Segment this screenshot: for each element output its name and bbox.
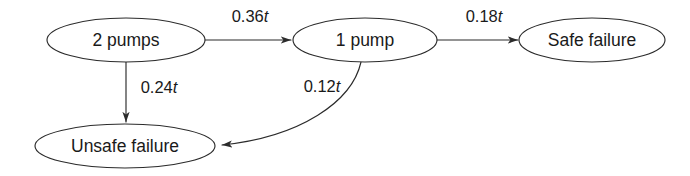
node-one-pump[interactable]: 1 pump <box>293 18 437 62</box>
node-label-unsafe-failure: Unsafe failure <box>71 136 179 156</box>
edge-label-018t: 0.18t <box>466 7 504 25</box>
node-two-pumps[interactable]: 2 pumps <box>47 18 205 62</box>
edge-label-024t: 0.24t <box>141 78 179 96</box>
edge-two-pumps-to-one-pump: 0.36t <box>205 7 291 40</box>
node-label-one-pump: 1 pump <box>336 30 394 50</box>
edge-label-036t: 0.36t <box>232 7 270 25</box>
edge-label-012t: 0.12t <box>304 77 342 95</box>
edge-two-pumps-to-unsafe-failure: 0.24t <box>126 62 179 122</box>
diagram-canvas: 0.36t 0.18t 0.24t 0.12t 2 pu <box>0 0 690 176</box>
node-unsafe-failure[interactable]: Unsafe failure <box>35 124 215 168</box>
edge-one-pump-to-safe-failure: 0.18t <box>437 7 518 40</box>
edge-arrow-curve <box>222 62 361 145</box>
node-label-two-pumps: 2 pumps <box>92 30 159 50</box>
node-label-safe-failure: Safe failure <box>548 30 637 50</box>
state-transition-diagram: 0.36t 0.18t 0.24t 0.12t 2 pu <box>0 0 690 176</box>
edge-one-pump-to-unsafe-failure: 0.12t <box>222 62 361 145</box>
node-safe-failure[interactable]: Safe failure <box>519 18 665 62</box>
